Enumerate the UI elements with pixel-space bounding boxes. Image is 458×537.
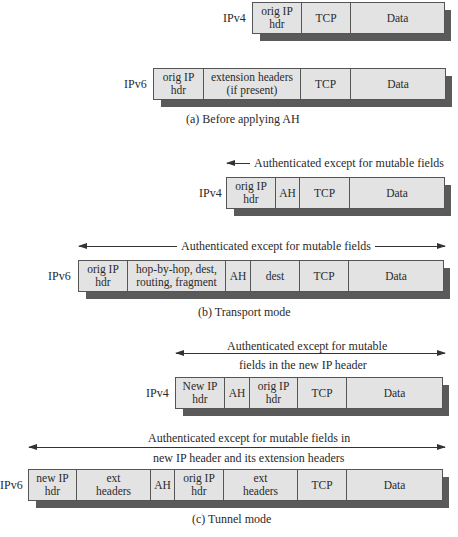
field-ah: AH [225,378,250,408]
ipv4-label-b: IPv4 [199,186,222,200]
arrowhead-left-icon [78,243,87,249]
caption-b: (b) Transport mode [198,305,291,319]
packet-b-ipv6: orig IPhdr hop-by-hop, dest,routing, fra… [78,260,444,292]
ipv6-label-b: IPv6 [48,269,71,283]
auth-text-c-ipv6-line1: Authenticated except for mutable fields … [148,431,350,445]
packet-b-ipv4: orig IPhdr AH TCP Data [226,177,445,209]
field-orig-ip-hdr: orig IPhdr [154,69,204,99]
packet-a-ipv4: orig IPhdr TCP Data [252,2,445,34]
field-new-ip-hdr: New IPhdr [176,378,225,408]
field-orig-ip-hdr: orig IPhdr [227,178,276,208]
packet-c-ipv4: New IPhdr AH orig IPhdr TCP Data [175,377,443,409]
packet-a-ipv6: orig IPhdr extension headers(if present)… [153,68,446,100]
caption-c: (c) Tunnel mode [192,512,271,526]
field-ext-headers-outer: extheaders [77,470,151,500]
field-tcp: TCP [298,470,347,500]
field-data: Data [347,470,442,500]
arrowhead-right-icon [437,444,446,450]
field-data: Data [351,3,444,33]
ipv4-label-c: IPv4 [146,386,169,400]
field-ah: AH [276,178,300,208]
field-extension-headers: extension headers(if present) [204,69,301,99]
field-tcp: TCP [301,69,351,99]
field-tcp: TCP [302,3,351,33]
auth-text-c-ipv4-line2: fields in the new IP header [239,358,367,372]
field-hop-by-hop-dest-routing-fragment: hop-by-hop, dest,routing, fragment [128,261,226,291]
arrowhead-right-icon [437,350,446,356]
field-ext-headers-inner: extheaders [224,470,298,500]
packet-c-ipv6: new IPhdr extheaders AH orig IPhdr exthe… [28,469,443,501]
field-new-ip-hdr: new IPhdr [29,470,77,500]
field-orig-ip-hdr: orig IPhdr [79,261,128,291]
ipv6-label-c: IPv6 [0,478,23,492]
field-data: Data [347,378,442,408]
arrowhead-left-icon [175,350,184,356]
field-data: Data [351,69,445,99]
auth-text-b-ipv4: Authenticated except for mutable fields [250,156,448,170]
field-data: Data [349,261,443,291]
caption-a: (a) Before applying AH [186,112,300,126]
ipv6-label-a: IPv6 [124,77,147,91]
ipv4-label-a: IPv4 [223,11,246,25]
auth-text-c-ipv4-line1: Authenticated except for mutable [227,339,387,353]
auth-text-c-ipv6-line2: new IP header and its extension headers [153,451,345,465]
field-tcp: TCP [300,178,350,208]
auth-range-arrow-c-ipv4 [176,353,445,354]
field-ah: AH [226,261,251,291]
field-tcp: TCP [298,378,347,408]
field-tcp: TCP [300,261,349,291]
field-ah: AH [151,470,175,500]
field-orig-ip-hdr: orig IPhdr [253,3,302,33]
arrowhead-left-icon [28,444,37,450]
field-orig-ip-hdr: orig IPhdr [250,378,298,408]
arrowhead-right-icon [437,243,446,249]
arrowhead-left-icon [226,160,235,166]
field-dest: dest [251,261,300,291]
auth-text-b-ipv6: Authenticated except for mutable fields [177,239,375,253]
field-data: Data [350,178,444,208]
auth-range-arrow-c-ipv6 [29,447,445,448]
field-orig-ip-hdr: orig IPhdr [175,470,224,500]
